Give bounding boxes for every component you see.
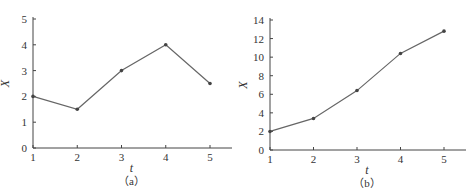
- y-tick-label: 3: [22, 65, 28, 77]
- axes: [33, 17, 232, 148]
- x-tick-label: 1: [267, 153, 273, 165]
- axes: [270, 18, 466, 150]
- data-point: [208, 82, 212, 86]
- x-tick-label: 2: [311, 153, 317, 165]
- data-point: [268, 130, 272, 134]
- data-line: [33, 45, 210, 110]
- x-tick-label: 5: [441, 153, 447, 165]
- y-tick-label: 6: [259, 88, 265, 100]
- chart-panel-a: 01234512345Xt（a）: [0, 13, 232, 187]
- figure: 01234512345Xt（a）0246810121412345Xt（b）: [0, 0, 473, 196]
- x-tick-label: 3: [354, 153, 360, 165]
- x-tick-label: 3: [119, 151, 125, 163]
- y-tick-label: 5: [22, 13, 28, 25]
- data-point: [399, 52, 403, 56]
- data-line: [270, 31, 444, 131]
- y-tick-label: 10: [253, 51, 265, 63]
- y-tick-label: 4: [22, 39, 28, 51]
- y-tick-label: 12: [253, 33, 264, 45]
- y-axis-label: X: [236, 81, 250, 90]
- y-tick-label: 14: [253, 14, 265, 26]
- x-tick-label: 1: [30, 151, 36, 163]
- data-point: [442, 29, 446, 33]
- y-axis-label: X: [0, 79, 12, 88]
- y-tick-label: 2: [22, 90, 28, 102]
- y-tick-label: 0: [259, 144, 265, 156]
- panel-caption: （a）: [118, 175, 145, 187]
- x-tick-label: 2: [75, 151, 81, 163]
- x-axis-label: t: [365, 163, 369, 177]
- data-point: [120, 69, 124, 73]
- data-point: [75, 108, 79, 112]
- x-tick-label: 4: [398, 153, 404, 165]
- x-tick-label: 5: [207, 151, 213, 163]
- y-tick-label: 4: [259, 107, 265, 119]
- y-tick-label: 1: [22, 116, 28, 128]
- panel-caption: （b）: [353, 177, 381, 189]
- y-tick-label: 2: [259, 125, 265, 137]
- chart-panel-b: 0246810121412345Xt（b）: [236, 14, 466, 189]
- data-point: [164, 43, 168, 47]
- x-axis-label: t: [130, 161, 134, 175]
- y-tick-label: 8: [259, 70, 265, 82]
- y-tick-label: 0: [22, 142, 28, 154]
- x-tick-label: 4: [163, 151, 169, 163]
- data-point: [312, 117, 316, 121]
- data-point: [31, 95, 35, 99]
- data-point: [355, 89, 359, 93]
